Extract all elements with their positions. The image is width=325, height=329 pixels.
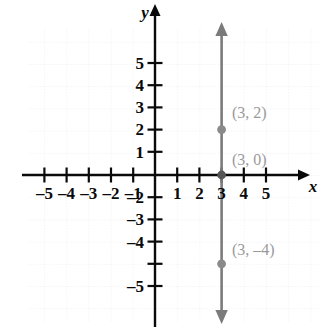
x-tick-label-2: 2 xyxy=(195,184,204,203)
x-tick-label-4: 4 xyxy=(240,184,249,203)
data-point-3-2 xyxy=(217,125,226,134)
y-tick-label-4: 4 xyxy=(136,76,145,95)
y-tick-label-5: 5 xyxy=(136,54,145,73)
x-tick-label-1: 1 xyxy=(173,184,182,203)
point-annotation-3-minus4: (3, –4) xyxy=(232,241,275,259)
x-tick-label--2: –2 xyxy=(102,184,120,203)
y-tick-label-3: 3 xyxy=(136,98,145,117)
y-tick-label--4: –4 xyxy=(126,233,145,252)
y-tick-label-2: 2 xyxy=(136,120,145,139)
x-axis-label: x xyxy=(308,177,318,196)
y-tick-label-1: 1 xyxy=(136,143,145,162)
point-annotation-3-0: (3, 0) xyxy=(232,151,267,169)
x-tick-label--5: –5 xyxy=(35,184,53,203)
coordinate-plane-svg: –5 –4 –3 –2 –1 1 2 3 4 5 5 4 3 2 1 –2 –3… xyxy=(0,0,325,329)
coordinate-plane-figure: –5 –4 –3 –2 –1 1 2 3 4 5 5 4 3 2 1 –2 –3… xyxy=(0,0,325,329)
data-point-3-minus4 xyxy=(217,259,226,268)
y-tick-label--2: –2 xyxy=(126,188,144,207)
point-annotation-3-2: (3, 2) xyxy=(232,104,267,122)
x-tick-label-5: 5 xyxy=(262,184,271,203)
y-tick-label--3: –3 xyxy=(126,210,144,229)
x-tick-label--3: –3 xyxy=(79,184,97,203)
y-tick-label--5: –5 xyxy=(126,277,144,296)
x-tick-label--4: –4 xyxy=(57,184,76,203)
x-tick-label-3: 3 xyxy=(217,184,226,203)
y-axis-label: y xyxy=(139,3,149,22)
data-point-3-0 xyxy=(217,171,226,180)
